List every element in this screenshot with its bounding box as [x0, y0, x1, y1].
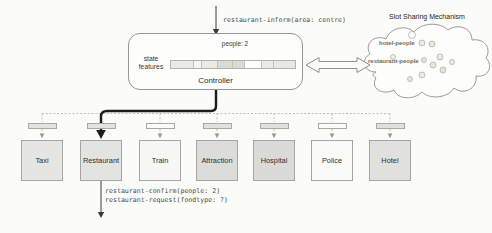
domain-label-police: Police: [322, 156, 342, 165]
people-slot-annotation: people: 2: [205, 40, 265, 47]
dashed-arrowhead-police: [330, 134, 335, 139]
dashed-arrowhead-train: [158, 134, 163, 139]
feature-segment-2: [202, 61, 218, 68]
slot-value-circle-9: [419, 72, 425, 78]
slot-sharing-title: Slot Sharing Mechanism: [366, 13, 488, 20]
feature-segment-1: [194, 61, 202, 68]
slot-value-circle-8: [440, 67, 446, 73]
shared-slot-hotel-people: hotel-people: [379, 40, 415, 46]
feature-segment-6: [262, 61, 274, 68]
domain-label-hospital: Hospital: [261, 156, 288, 165]
feature-segment-0: [171, 61, 194, 68]
slot-bar-police: [318, 123, 347, 129]
slot-value-circle-10: [408, 77, 413, 82]
output-dialog-act-confirm: restaurant-confirm(people: 2): [105, 187, 220, 195]
dashed-arrowhead-hotel: [388, 134, 393, 139]
feature-segment-7: [274, 61, 295, 68]
output-act-arrow: [98, 181, 104, 218]
slot-bar-hospital: [260, 123, 289, 129]
selected-domain-arrow: [96, 90, 216, 139]
domain-box-train: Train: [139, 140, 181, 181]
domain-box-police: Police: [311, 140, 353, 181]
slot-value-circle-2: [429, 41, 435, 47]
slot-bar-train: [146, 123, 175, 129]
domain-label-taxi: Taxi: [35, 156, 48, 165]
state-feature-vector: [170, 60, 296, 69]
dashed-arrowhead-taxi: [40, 134, 45, 139]
controller-label: Controller: [128, 76, 303, 85]
feature-segment-5: [245, 61, 262, 68]
domain-label-restaurant: Restaurant: [83, 156, 119, 165]
domain-label-train: Train: [152, 156, 169, 165]
feature-segment-4: [233, 61, 245, 68]
slot-value-circle-1: [419, 40, 425, 46]
domain-box-hotel: Hotel: [369, 140, 411, 181]
dashed-arrowhead-hospital: [272, 134, 277, 139]
domain-label-hotel: Hotel: [381, 156, 398, 165]
slot-value-circle-0: [409, 32, 416, 39]
state-features-label: state features: [133, 55, 169, 70]
output-dialog-act-request: restaurant-request(foodtype: ?): [105, 196, 228, 204]
domain-box-taxi: Taxi: [21, 140, 63, 181]
slot-bar-attraction: [203, 123, 232, 129]
slot-bar-restaurant: [87, 123, 116, 129]
dashed-arrowhead-attraction: [215, 134, 220, 139]
slot-value-circle-5: [422, 58, 427, 63]
bidirectional-arrow: [306, 58, 370, 73]
domain-box-restaurant: Restaurant: [80, 140, 122, 181]
input-act-arrow: [213, 6, 219, 35]
slot-bar-taxi: [28, 123, 57, 129]
slot-value-circle-6: [450, 60, 455, 65]
slot-bar-hotel: [376, 123, 405, 129]
shared-slot-restaurant-people: restaurant-people: [368, 58, 419, 64]
input-dialog-act: restaurant-inform(area: centre): [223, 16, 346, 24]
domain-box-attraction: Attraction: [196, 140, 238, 181]
slot-value-circle-4: [437, 54, 443, 60]
figure-canvas: restaurant-inform(area: centre) state fe…: [0, 0, 492, 233]
feature-segment-3: [218, 61, 233, 68]
slot-value-circle-7: [430, 62, 436, 68]
domain-label-attraction: Attraction: [201, 156, 232, 165]
domain-box-hospital: Hospital: [253, 140, 295, 181]
